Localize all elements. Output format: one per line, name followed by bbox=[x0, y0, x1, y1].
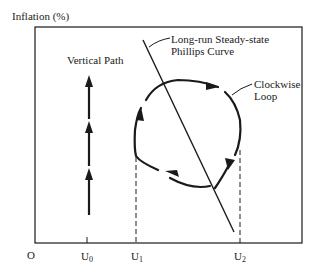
diagram-canvas bbox=[0, 0, 324, 276]
tick-sub: 2 bbox=[242, 255, 246, 264]
loop-label-line1: Clockwise bbox=[254, 78, 300, 90]
tick-base: U bbox=[234, 250, 242, 262]
phillips-label-line1: Long-run Steady-state bbox=[171, 33, 269, 45]
vertical-path-label: Vertical Path bbox=[67, 54, 124, 66]
origin-label: O bbox=[27, 249, 35, 261]
vertical-path bbox=[85, 75, 93, 215]
y-axis-label: Inflation (%) bbox=[12, 10, 69, 22]
loop-label-line2: Loop bbox=[254, 90, 277, 102]
x-tick-label-u0: U0 bbox=[81, 250, 93, 266]
tick-sub: 1 bbox=[139, 255, 143, 264]
loop-arrow-left bbox=[165, 170, 179, 177]
tick-base: U bbox=[81, 250, 89, 262]
phillips-leader bbox=[149, 38, 170, 47]
long-run-phillips-curve bbox=[143, 40, 234, 232]
x-tick-label-u2: U2 bbox=[234, 250, 246, 266]
phillips-label-line2: Phillips Curve bbox=[171, 45, 234, 57]
tick-base: U bbox=[131, 250, 139, 262]
tick-sub: 0 bbox=[89, 255, 93, 264]
x-tick-label-u1: U1 bbox=[131, 250, 143, 266]
loop-leader bbox=[232, 84, 252, 95]
